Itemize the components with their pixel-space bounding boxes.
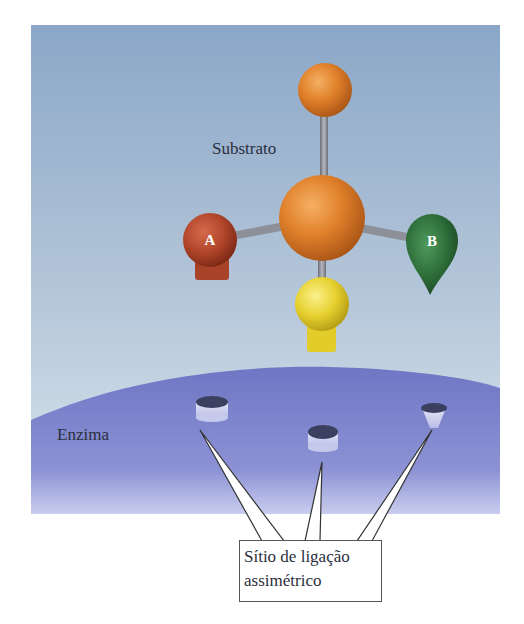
atom-a-label: A	[205, 232, 216, 249]
bond-top	[320, 115, 328, 185]
callout-line-1: Sítio de ligação	[244, 545, 381, 569]
atom-yellow	[295, 277, 349, 331]
callout-line-2: assimétrico	[244, 569, 381, 593]
enzyme-substrate-diagram	[0, 0, 524, 624]
binding-site-middle	[308, 425, 338, 452]
substrate-label: Substrato	[212, 139, 276, 159]
atom-center	[279, 175, 365, 261]
binding-site-callout: Sítio de ligação assimétrico	[239, 540, 382, 602]
enzyme-label: Enzima	[57, 425, 109, 445]
atom-b-label: B	[427, 233, 437, 250]
binding-site-left	[196, 396, 228, 422]
atom-top	[298, 63, 352, 117]
